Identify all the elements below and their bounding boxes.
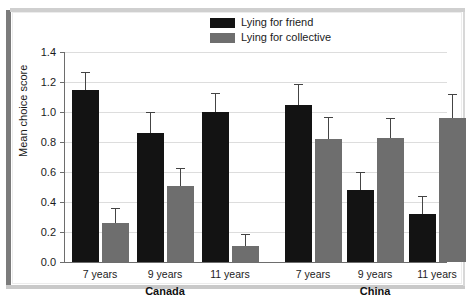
error-bar-line (452, 94, 453, 118)
x-axis-tick-label: 7 years (83, 268, 117, 280)
error-bar-line (85, 72, 86, 90)
x-axis-tick-label: 11 years (417, 268, 457, 280)
bar-lying-for-collective (377, 138, 404, 263)
error-bar-cap (111, 208, 120, 209)
x-axis-group-label: Canada (145, 285, 185, 297)
legend-item-label: Lying for collective (241, 32, 331, 43)
error-bar-cap (448, 94, 457, 95)
error-bar-line (245, 234, 246, 246)
error-bar-cap (324, 117, 333, 118)
bar-lying-for-friend (202, 112, 229, 262)
y-axis-tick-label: 0.8 (41, 136, 56, 148)
error-bar-line (328, 117, 329, 140)
gridline (65, 52, 447, 53)
y-axis-line (64, 52, 65, 262)
error-bar-cap (386, 118, 395, 119)
gridline (65, 82, 447, 83)
legend-swatch-icon (210, 18, 235, 28)
error-bar-line (115, 208, 116, 223)
y-axis-tick-label: 1.4 (41, 46, 56, 58)
error-bar-cap (176, 168, 185, 169)
bar-lying-for-friend (347, 190, 374, 262)
y-axis-tick-label: 0.0 (41, 256, 56, 268)
y-axis-tick-label: 1.2 (41, 76, 56, 88)
error-bar-cap (294, 84, 303, 85)
error-bar-cap (356, 172, 365, 173)
gridline (65, 112, 447, 113)
y-axis-tick-label: 0.6 (41, 166, 56, 178)
y-axis-title: Mean choice score (17, 65, 29, 157)
bar-lying-for-collective (439, 118, 466, 262)
bar-lying-for-friend (285, 105, 312, 263)
y-axis-tick (60, 202, 65, 203)
error-bar-line (360, 172, 361, 190)
error-bar-line (215, 93, 216, 113)
bar-lying-for-collective (102, 223, 129, 262)
y-axis-tick (60, 262, 65, 263)
bar-lying-for-collective (167, 186, 194, 263)
error-bar-line (180, 168, 181, 186)
error-bar-cap (146, 112, 155, 113)
legend-item-label: Lying for friend (241, 17, 313, 28)
frame-left-edge (6, 10, 11, 286)
legend-item: Lying for friend (210, 16, 331, 29)
error-bar-cap (418, 196, 427, 197)
x-axis-tick-label: 11 years (210, 268, 250, 280)
y-axis-tick (60, 52, 65, 53)
y-axis-tick-label: 0.4 (41, 196, 56, 208)
bar-lying-for-friend (72, 90, 99, 263)
y-axis-tick-label: 1.0 (41, 106, 56, 118)
legend-swatch-icon (210, 33, 235, 43)
error-bar-cap (241, 234, 250, 235)
x-axis-tick-label: 9 years (148, 268, 182, 280)
error-bar-line (422, 196, 423, 214)
error-bar-line (390, 118, 391, 138)
x-axis-tick-label: 9 years (358, 268, 392, 280)
y-axis-tick (60, 172, 65, 173)
y-axis-tick (60, 112, 65, 113)
error-bar-cap (211, 93, 220, 94)
bar-lying-for-collective (315, 139, 342, 262)
plot-area: 0.00.20.40.60.81.01.21.4 7 years9 years1… (65, 52, 447, 262)
legend-item: Lying for collective (210, 31, 331, 44)
bar-lying-for-friend (409, 214, 436, 262)
error-bar-cap (81, 72, 90, 73)
y-axis-tick (60, 232, 65, 233)
error-bar-line (150, 112, 151, 133)
x-axis-group-label: China (360, 285, 391, 297)
x-axis-line (64, 262, 447, 263)
y-axis-tick-label: 0.2 (41, 226, 56, 238)
y-axis-tick (60, 142, 65, 143)
chart-legend: Lying for friendLying for collective (210, 16, 331, 44)
y-axis-tick (60, 82, 65, 83)
bar-lying-for-collective (232, 246, 259, 263)
frame-bottom-edge (6, 285, 465, 289)
error-bar-line (298, 84, 299, 105)
bar-lying-for-friend (137, 133, 164, 262)
x-axis-tick-label: 7 years (296, 268, 330, 280)
figure-container: Lying for friendLying for collective Mea… (0, 0, 472, 305)
